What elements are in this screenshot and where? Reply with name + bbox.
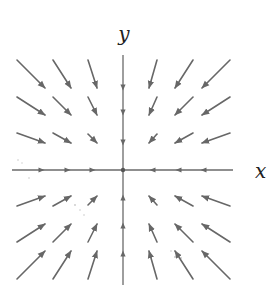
axis-arrowhead-icon bbox=[120, 251, 125, 257]
axis-arrowhead-icon bbox=[120, 110, 125, 116]
vector-arrow bbox=[149, 60, 157, 88]
vector-arrow bbox=[17, 133, 45, 143]
scan-noise bbox=[17, 159, 182, 259]
axis-arrowhead-icon bbox=[120, 85, 125, 91]
vector-arrow bbox=[53, 196, 71, 206]
axis-arrowhead-icon bbox=[201, 167, 207, 172]
vector-arrow bbox=[88, 60, 97, 88]
x-axis-label: x bbox=[255, 159, 266, 183]
vector-arrow bbox=[17, 224, 45, 242]
axis-arrowhead-icon bbox=[65, 167, 71, 172]
vector-arrow bbox=[175, 196, 193, 206]
vector-arrow bbox=[175, 97, 193, 115]
vector-arrow bbox=[175, 133, 193, 143]
vector-field-diagram: x y bbox=[0, 0, 277, 289]
vector-arrow bbox=[53, 251, 71, 279]
vector-arrow bbox=[88, 97, 97, 115]
vector-arrow bbox=[149, 251, 157, 279]
axis-arrowhead-icon bbox=[120, 223, 125, 229]
vector-arrow bbox=[149, 196, 157, 205]
vector-arrow bbox=[202, 97, 230, 115]
vector-arrow bbox=[17, 251, 45, 279]
vector-arrow bbox=[202, 224, 230, 242]
vector-arrow bbox=[88, 196, 97, 205]
vector-arrow bbox=[53, 133, 71, 143]
vector-arrow bbox=[202, 60, 230, 88]
vector-arrow bbox=[17, 196, 45, 206]
vector-arrow bbox=[53, 224, 71, 242]
y-axis-label: y bbox=[117, 22, 130, 46]
vector-arrow bbox=[17, 97, 45, 115]
vector-arrow bbox=[88, 251, 97, 279]
vector-arrow bbox=[175, 224, 193, 242]
vector-arrow bbox=[202, 251, 230, 279]
vector-arrow bbox=[149, 97, 157, 115]
axis-arrowhead-icon bbox=[120, 140, 125, 146]
vector-arrow bbox=[202, 133, 230, 143]
vector-arrow bbox=[53, 60, 71, 88]
vector-arrow bbox=[149, 224, 157, 242]
axis-arrowhead-icon bbox=[120, 195, 125, 201]
axis-arrowhead-icon bbox=[150, 167, 156, 172]
vector-arrow bbox=[88, 134, 97, 143]
vector-arrow bbox=[175, 60, 193, 88]
vector-arrow bbox=[175, 251, 193, 279]
vector-arrow bbox=[53, 97, 71, 115]
axis-arrowhead-icon bbox=[39, 167, 45, 172]
vector-arrow bbox=[17, 60, 45, 88]
vector-arrow bbox=[88, 224, 97, 242]
vector-arrow bbox=[202, 196, 230, 206]
axis-arrowhead-icon bbox=[90, 167, 96, 172]
origin-point bbox=[121, 168, 125, 172]
vector-arrow bbox=[149, 134, 157, 143]
axis-arrowhead-icon bbox=[176, 167, 182, 172]
